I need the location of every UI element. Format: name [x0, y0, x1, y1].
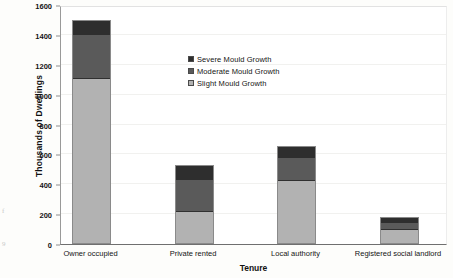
- x-axis-tick-labels: Owner occupiedPrivate rentedLocal author…: [60, 249, 447, 263]
- bar-segment-severe[interactable]: [72, 20, 111, 35]
- y-tick-label-1000: 1000: [0, 91, 52, 100]
- legend-label: Slight Mould Growth: [197, 79, 266, 88]
- y-tick-label-1600: 1600: [0, 2, 52, 11]
- bar-segment-moderate[interactable]: [175, 180, 214, 211]
- bar-registered-social-landlord[interactable]: [380, 217, 419, 244]
- legend-item-severe-mould-growth[interactable]: Severe Mould Growth: [188, 54, 280, 64]
- gridline-600: [61, 153, 446, 154]
- legend-swatch-icon: [188, 80, 194, 86]
- x-tick-label-local-authority: Local authority: [271, 249, 320, 258]
- legend-swatch-icon: [188, 56, 194, 62]
- bar-segment-moderate[interactable]: [277, 158, 316, 180]
- x-tick-label-private-rented: Private rented: [170, 249, 217, 258]
- gridline-200: [61, 213, 446, 214]
- y-tick-label-1200: 1200: [0, 61, 52, 70]
- bar-segment-moderate[interactable]: [72, 35, 111, 78]
- bar-segment-slight[interactable]: [175, 211, 214, 244]
- gridline-1400: [61, 34, 446, 35]
- scan-artifact-bottom: 9: [2, 240, 6, 248]
- bar-segment-severe[interactable]: [175, 165, 214, 180]
- bar-private-rented[interactable]: [175, 165, 214, 244]
- gridline-1000: [61, 94, 446, 95]
- y-tick-label-200: 200: [0, 211, 52, 220]
- y-tick-label-400: 400: [0, 181, 52, 190]
- gridline-800: [61, 124, 446, 125]
- mould-growth-stacked-bar-chart: Thousands of Dwellings 02004006008001000…: [0, 0, 453, 278]
- legend-item-moderate-mould-growth[interactable]: Moderate Mould Growth: [188, 66, 280, 76]
- bar-owner-occupied[interactable]: [72, 20, 111, 244]
- bar-segment-slight[interactable]: [380, 229, 419, 244]
- legend-item-slight-mould-growth[interactable]: Slight Mould Growth: [188, 78, 280, 88]
- y-axis-ticks: 02004006008001000120014001600: [0, 6, 56, 245]
- y-tick-label-600: 600: [0, 151, 52, 160]
- y-tick-label-0: 0: [0, 241, 52, 250]
- legend-label: Severe Mould Growth: [197, 55, 271, 64]
- y-tick-label-800: 800: [0, 121, 52, 130]
- bar-segment-slight[interactable]: [72, 78, 111, 244]
- x-tick-label-owner-occupied: Owner occupied: [63, 249, 117, 258]
- bar-local-authority[interactable]: [277, 146, 316, 244]
- plot-area: [60, 6, 447, 245]
- scan-artifact-top: f: [2, 207, 4, 215]
- bar-segment-slight[interactable]: [277, 180, 316, 244]
- chart-legend: Severe Mould GrowthModerate Mould Growth…: [188, 54, 280, 88]
- gridline-400: [61, 183, 446, 184]
- y-tick-label-1400: 1400: [0, 31, 52, 40]
- x-axis-title: Tenure: [60, 263, 447, 273]
- legend-label: Moderate Mould Growth: [197, 67, 280, 76]
- bar-segment-severe[interactable]: [277, 146, 316, 158]
- legend-swatch-icon: [188, 68, 194, 74]
- x-tick-label-registered-social-landlord: Registered social landlord: [355, 249, 441, 258]
